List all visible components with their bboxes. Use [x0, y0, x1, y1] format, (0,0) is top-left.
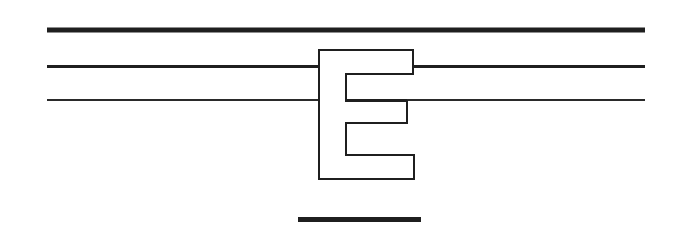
- underline-bar: [298, 217, 421, 222]
- e-letter-figure: [0, 0, 685, 249]
- letter-e-outline: [319, 50, 414, 179]
